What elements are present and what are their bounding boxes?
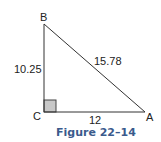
vertex-b-label: B: [40, 11, 47, 23]
triangle-diagram: B C A 10.25 15.78 12 Figure 22–14: [0, 0, 161, 142]
figure-caption: Figure 22–14: [56, 126, 136, 139]
right-angle-marker: [44, 100, 56, 112]
side-ca-label: 12: [89, 114, 101, 126]
side-ab-label: 15.78: [94, 55, 122, 67]
vertex-a-label: A: [146, 111, 154, 123]
vertex-c-label: C: [33, 110, 41, 122]
triangle: [44, 24, 145, 112]
side-bc-label: 10.25: [14, 63, 42, 75]
